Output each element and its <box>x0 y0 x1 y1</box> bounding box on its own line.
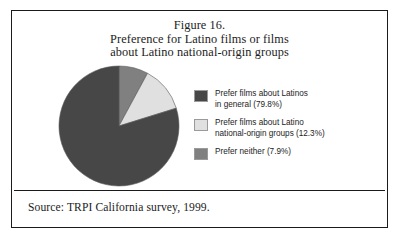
chart-legend: Prefer films about Latinos in general (7… <box>194 89 384 168</box>
legend-label-line: Prefer films about Latino <box>215 118 325 129</box>
legend-label-prefer-latinos-general: Prefer films about Latinos in general (7… <box>215 89 308 110</box>
legend-swatch-prefer-neither <box>194 148 208 160</box>
pie-slice-group <box>59 66 179 186</box>
legend-label-line: national-origin groups (12.3%) <box>215 129 325 140</box>
legend-swatch-prefer-latinos-general <box>194 90 208 102</box>
legend-label-line: in general (79.8%) <box>215 100 308 111</box>
legend-item-prefer-national-origin: Prefer films about Latino national-origi… <box>194 118 384 139</box>
legend-label-prefer-neither: Prefer neither (7.9%) <box>215 147 291 158</box>
legend-label-line: Prefer films about Latinos <box>215 89 308 100</box>
source-note: Source: TRPI California survey, 1999. <box>28 201 210 214</box>
figure-frame: Figure 16. Preference for Latino films o… <box>11 10 388 228</box>
legend-label-line: Prefer neither (7.9%) <box>215 147 291 158</box>
legend-swatch-prefer-national-origin <box>194 119 208 131</box>
pie-chart <box>58 65 180 187</box>
pie-chart-svg <box>58 65 180 187</box>
figure-title-line-3: about Latino national-origin groups <box>12 46 387 60</box>
legend-label-prefer-national-origin: Prefer films about Latino national-origi… <box>215 118 325 139</box>
figure-title-line-2: Preference for Latino films or films <box>12 33 387 47</box>
source-divider <box>13 190 386 191</box>
figure-title-line-1: Figure 16. <box>12 19 387 33</box>
legend-item-prefer-latinos-general: Prefer films about Latinos in general (7… <box>194 89 384 110</box>
figure-title: Figure 16. Preference for Latino films o… <box>12 19 387 60</box>
legend-item-prefer-neither: Prefer neither (7.9%) <box>194 147 384 160</box>
